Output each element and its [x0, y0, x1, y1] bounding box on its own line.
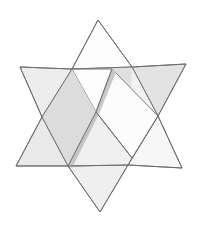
figure-root: Interwoven Star of David — [0, 0, 205, 228]
woven-hexagram-illustration: Interwoven Star of David — [0, 0, 205, 228]
